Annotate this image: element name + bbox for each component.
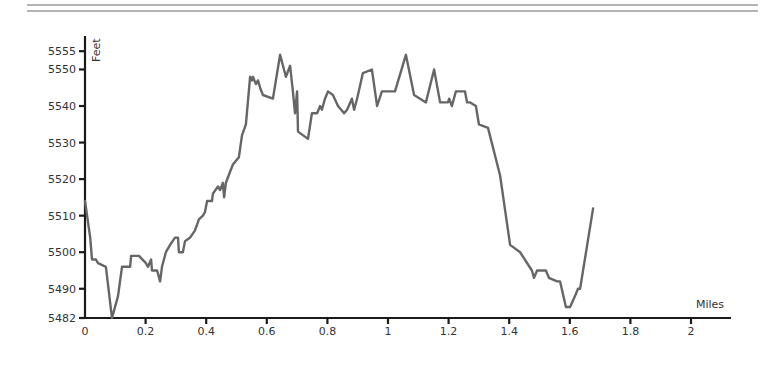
y-tick-label: 5540 — [48, 100, 76, 113]
y-axis: 548254905500551055205530554055505555 — [48, 36, 85, 325]
y-tick-label: 5530 — [48, 137, 76, 150]
x-tick-label: 1.4 — [500, 325, 518, 338]
x-tick-label: 2 — [688, 325, 695, 338]
x-tick-label: 0.8 — [319, 325, 337, 338]
x-axis-title: Miles — [696, 298, 724, 311]
elevation-line — [85, 55, 593, 318]
x-tick-label: 1.6 — [561, 325, 579, 338]
x-tick-label: 1 — [385, 325, 392, 338]
elevation-chart: 548254905500551055205530554055505555 00.… — [0, 0, 774, 366]
x-tick-label: 0.6 — [258, 325, 276, 338]
y-tick-label: 5500 — [48, 246, 76, 259]
y-tick-label: 5555 — [48, 45, 76, 58]
y-tick-label: 5510 — [48, 210, 76, 223]
x-tick-label: 0.2 — [137, 325, 155, 338]
x-tick-label: 0 — [82, 325, 89, 338]
x-axis: 00.20.40.60.811.21.41.61.82 — [82, 318, 732, 338]
y-tick-label: 5550 — [48, 63, 76, 76]
x-tick-label: 1.2 — [440, 325, 458, 338]
x-tick-label: 1.8 — [622, 325, 640, 338]
y-tick-label: 5490 — [48, 283, 76, 296]
y-tick-label: 5520 — [48, 173, 76, 186]
x-tick-label: 0.4 — [197, 325, 215, 338]
y-tick-label: 5482 — [48, 312, 76, 325]
y-axis-title: Feet — [90, 38, 103, 62]
